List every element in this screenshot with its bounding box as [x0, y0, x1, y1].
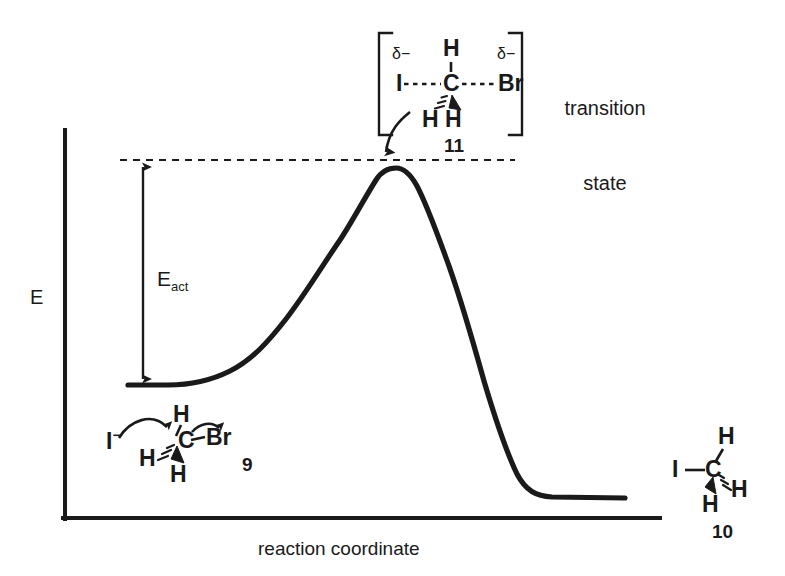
- x-axis-label: reaction coordinate: [258, 539, 420, 558]
- reactant-hydrogen-top: H: [173, 403, 190, 426]
- y-axis-label: E: [30, 287, 43, 307]
- reactant-hydrogen-bottom: H: [170, 463, 187, 486]
- reactant-bromine-atom: Br: [206, 426, 232, 449]
- product-hydrogen-right: H: [731, 478, 748, 501]
- nucleophilic-attack-arrow: [119, 419, 167, 438]
- transition-state-caption-line1: transition: [536, 96, 674, 121]
- product-compound-number: 10: [712, 522, 733, 541]
- product-hydrogen-bottom: H: [702, 493, 719, 516]
- product-iodine-atom: I: [672, 458, 678, 481]
- reactant-hydrogen-left: H: [139, 447, 156, 470]
- transition-state-pointer-arrow: [386, 112, 410, 152]
- activation-energy-label-sub: act: [171, 279, 188, 294]
- ts-hydrogen-top: H: [443, 37, 460, 60]
- ts-hydrogen-bottom-right: H: [445, 108, 462, 131]
- ts-left-partial-charge: δ−: [392, 46, 410, 62]
- product-carbon-atom: C: [705, 458, 722, 481]
- transition-state-left-bracket: [379, 33, 392, 135]
- ts-bromine-atom: Br: [498, 72, 524, 95]
- ts-carbon-atom: C: [443, 72, 460, 95]
- activation-energy-label-main: E: [157, 267, 171, 290]
- reaction-coordinate-figure: E reaction coordinate Eact transition st…: [0, 0, 785, 576]
- transition-state-caption: transition state: [536, 46, 674, 246]
- activation-energy-label: Eact: [157, 268, 188, 293]
- transition-state-caption-line2: state: [536, 171, 674, 196]
- ts-right-partial-charge: δ−: [497, 46, 515, 62]
- reactant-compound-number: 9: [242, 455, 253, 474]
- ts-iodine-atom: I: [396, 72, 402, 95]
- reactant-iodide-ion: I−: [106, 428, 121, 453]
- reactant-carbon-atom: C: [178, 429, 195, 452]
- product-hydrogen-top: H: [718, 425, 735, 448]
- reactant-iodide-charge: −: [112, 427, 120, 443]
- ts-compound-number: 11: [444, 136, 464, 155]
- ts-hydrogen-bottom-left: H: [422, 108, 439, 131]
